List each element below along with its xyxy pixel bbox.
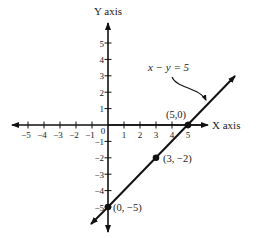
data-point — [105, 204, 112, 211]
x-tick-label: 1 — [122, 130, 127, 140]
point-label: (3, −2) — [163, 153, 192, 165]
x-tick-label: −3 — [53, 130, 63, 140]
graph-svg: X axis Y axis −5−4−3−2−1012345 −5−4−3−2−… — [0, 0, 259, 238]
y-tick-label: 4 — [100, 55, 105, 65]
x-tick-label: −2 — [69, 130, 79, 140]
x-tick-label: −4 — [37, 130, 47, 140]
x-tick-label: 0 — [101, 126, 106, 136]
y-tick-label: 5 — [100, 39, 105, 49]
data-point — [153, 155, 160, 162]
x-tick-label: 2 — [138, 130, 143, 140]
y-tick-label: −4 — [94, 186, 104, 196]
y-tick-label: 2 — [100, 88, 105, 98]
point-label: (0, −5) — [113, 202, 142, 214]
x-tick-label: 5 — [186, 130, 191, 140]
y-tick-label: −1 — [94, 137, 104, 147]
y-tick-label: 3 — [100, 71, 105, 81]
annotation-curved-arrow — [172, 77, 206, 100]
point-label: (5,0) — [166, 109, 187, 121]
x-tick-label: 3 — [154, 130, 159, 140]
x-tick-label: −1 — [85, 130, 95, 140]
x-axis-label: X axis — [212, 119, 240, 131]
x-tick-label: −5 — [21, 130, 31, 140]
y-tick-label: −3 — [94, 170, 104, 180]
equation-label: x − y = 5 — [147, 61, 190, 73]
y-axis-label: Y axis — [94, 5, 122, 17]
y-tick-label: 1 — [100, 104, 105, 114]
y-tick-label: −2 — [94, 153, 104, 163]
data-point — [185, 122, 192, 129]
coordinate-plane: X axis Y axis −5−4−3−2−1012345 −5−4−3−2−… — [0, 0, 259, 238]
line-x-minus-y-equals-5 — [108, 76, 235, 207]
